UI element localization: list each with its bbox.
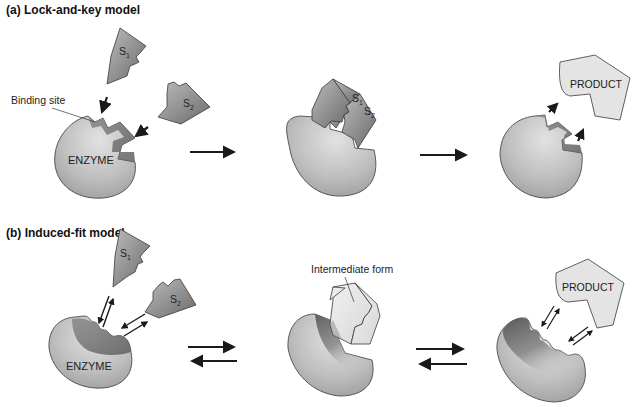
arrow-s2-to-enzyme xyxy=(136,127,148,136)
enzyme-b1: ENZYME xyxy=(49,316,132,388)
arrow-product-bind-1 xyxy=(547,309,559,329)
product-b: PRODUCT xyxy=(556,259,624,328)
enzyme-label-b: ENZYME xyxy=(66,360,112,372)
enzyme-models-diagram: (a) Lock-and-key model ENZYME Binding si… xyxy=(0,0,635,407)
enzyme-label: ENZYME xyxy=(68,154,114,166)
arrow-product-bind-2 xyxy=(573,331,592,345)
enzyme-substrate-complex-a: S1 S2 xyxy=(287,79,376,196)
enzyme-a1: ENZYME xyxy=(55,116,136,198)
substrate-s2-b: S2 xyxy=(145,279,196,318)
product-label-b: PRODUCT xyxy=(562,281,615,293)
enzyme-a3 xyxy=(500,115,582,198)
s2-bound-label: S2 xyxy=(364,105,375,119)
enzyme-b3 xyxy=(497,318,586,402)
intermediate-form-substrates xyxy=(330,283,380,344)
binding-site-label: Binding site xyxy=(11,94,65,106)
arrow-s1-bind xyxy=(99,296,109,323)
arrow-release-1 xyxy=(549,104,557,112)
binding-site-leader-line xyxy=(52,108,95,122)
arrow-s1-release xyxy=(103,299,113,327)
s1-bound-label: S1 xyxy=(352,92,363,106)
arrow-release-2 xyxy=(578,130,583,141)
substrate-s1-b: S1 xyxy=(113,229,150,287)
arrow-product-release-2 xyxy=(569,327,588,341)
panel-a-title: (a) Lock-and-key model xyxy=(6,3,140,17)
product-a: PRODUCT xyxy=(559,55,630,120)
substrate-s1-a: S1 xyxy=(107,28,146,84)
arrow-s1-to-enzyme xyxy=(102,97,107,112)
panel-b-title: (b) Induced-fit model xyxy=(6,226,125,240)
arrow-product-release-1 xyxy=(542,306,554,326)
intermediate-form-label: Intermediate form xyxy=(311,263,394,275)
substrate-s2-a: S2 xyxy=(158,82,210,124)
product-label: PRODUCT xyxy=(570,78,623,90)
